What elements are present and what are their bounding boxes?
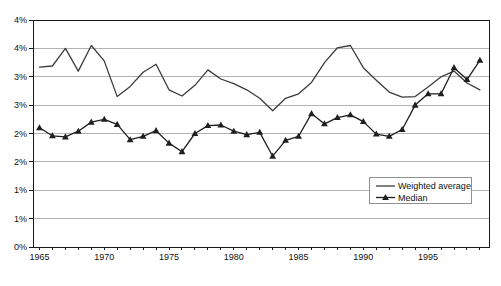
median-marker bbox=[256, 129, 263, 135]
legend: Weighted averageMedian bbox=[370, 178, 472, 204]
x-axis-labels: 1965197019751980198519901995 bbox=[29, 252, 438, 262]
y-axis-label: 4% bbox=[14, 43, 27, 53]
y-axis-label: 3% bbox=[14, 100, 27, 110]
line-chart: 4%4%3%3%2%2%1%1%0%1965197019751980198519… bbox=[0, 0, 501, 286]
y-axis-labels: 4%4%3%3%2%2%1%1%0% bbox=[14, 15, 27, 252]
y-axis-label: 4% bbox=[14, 15, 27, 25]
y-axis-label: 2% bbox=[14, 129, 27, 139]
median-marker bbox=[36, 124, 43, 130]
x-axis-label: 1965 bbox=[29, 252, 49, 262]
y-axis-label: 1% bbox=[14, 214, 27, 224]
x-axis-label: 1990 bbox=[353, 252, 373, 262]
y-axis-ticks bbox=[29, 20, 33, 247]
series-weighted-average bbox=[40, 46, 480, 111]
median-marker bbox=[399, 126, 406, 132]
y-axis-label: 1% bbox=[14, 185, 27, 195]
legend-label-median: Median bbox=[398, 193, 428, 203]
y-axis-label: 0% bbox=[14, 242, 27, 252]
median-marker bbox=[451, 64, 458, 70]
series-line-median bbox=[40, 60, 480, 156]
x-axis-label: 1985 bbox=[289, 252, 309, 262]
series-line-weighted-average bbox=[40, 46, 480, 111]
x-axis-label: 1970 bbox=[94, 252, 114, 262]
median-marker bbox=[101, 116, 108, 122]
median-marker bbox=[217, 121, 224, 127]
median-marker bbox=[347, 111, 354, 117]
median-marker bbox=[75, 128, 82, 134]
line-chart-figure: 4%4%3%3%2%2%1%1%0%1965197019751980198519… bbox=[0, 0, 501, 286]
series-median bbox=[36, 57, 483, 159]
median-marker bbox=[153, 127, 160, 133]
median-marker bbox=[308, 110, 315, 116]
median-marker bbox=[477, 57, 484, 63]
median-marker bbox=[192, 130, 199, 136]
y-axis-label: 3% bbox=[14, 72, 27, 82]
x-axis-label: 1995 bbox=[418, 252, 438, 262]
x-axis-label: 1975 bbox=[159, 252, 179, 262]
y-axis-label: 2% bbox=[14, 157, 27, 167]
x-axis-label: 1980 bbox=[224, 252, 244, 262]
legend-label-weighted-average: Weighted average bbox=[398, 181, 471, 191]
